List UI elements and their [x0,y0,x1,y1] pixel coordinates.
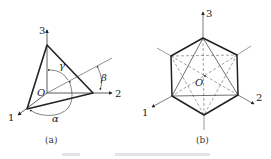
beta-label: β [100,72,107,83]
axis-3-label: 3 [39,25,45,36]
gamma-label: γ [59,60,65,71]
axis-1-label: 1 [8,112,14,123]
panel-a: 3 2 1 O γ β α (a) [8,25,121,145]
axis-1 [152,96,172,107]
axis-3-label: 3 [206,8,212,19]
origin-label: O [195,77,203,88]
caption-b: (b) [196,135,209,145]
diagram-figure: 3 2 1 O γ β α (a) 3 2 1 O [0,0,271,159]
center-point [204,75,206,77]
panel-b: 3 2 1 O (b) [142,8,262,145]
caption-a: (a) [45,135,57,145]
axis-2-label: 2 [115,88,121,99]
solid-triangle [172,38,238,96]
axis-2 [238,95,254,104]
faint-caption-bar [0,150,271,159]
plane-triangle [27,45,93,109]
axis-2-label: 2 [256,92,262,103]
alpha-label: α [52,113,59,124]
gamma-arc [50,70,68,80]
stub-upper-right [237,46,251,55]
stub-upper-left [157,48,171,56]
axis-1-label: 1 [142,107,148,118]
origin-label: O [37,87,45,98]
